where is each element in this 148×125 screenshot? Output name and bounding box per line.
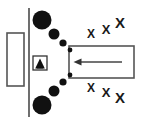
particle-dot — [68, 73, 73, 78]
particle-dot — [49, 29, 60, 40]
particle-dot — [59, 39, 66, 46]
particle-dot — [59, 78, 66, 85]
particle-dot — [33, 96, 52, 115]
x-mark: X — [102, 22, 111, 37]
particle-dot — [49, 86, 60, 97]
x-mark: X — [87, 81, 95, 95]
particle-dot — [68, 48, 73, 53]
x-mark: X — [115, 89, 125, 106]
diagram-svg: XXX XXX — [0, 0, 148, 125]
left-panel-rectangle — [7, 33, 24, 86]
particle-dot — [33, 11, 52, 30]
x-mark: X — [87, 27, 95, 41]
x-mark: X — [115, 14, 125, 31]
diagram-canvas: XXX XXX — [0, 0, 148, 125]
x-mark: X — [102, 85, 111, 100]
sensor-triangle-icon — [33, 56, 47, 70]
